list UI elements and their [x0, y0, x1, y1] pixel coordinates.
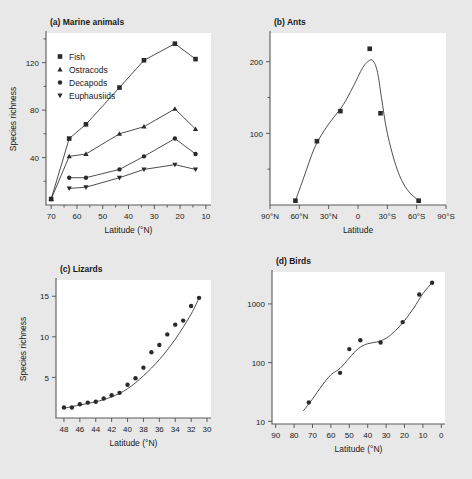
- legend-label-decapods: Decapods: [69, 78, 107, 88]
- x-tick-label: 44: [91, 425, 100, 434]
- panel-ants: (b) Ants90°N60°N30°N030°S60°S90°S100200L…: [250, 17, 455, 235]
- data-point: [293, 198, 298, 203]
- data-point: [67, 176, 71, 180]
- y-tick-label: 100: [252, 359, 266, 368]
- x-tick-label: 0: [356, 212, 361, 221]
- x-tick-label: 30: [382, 431, 391, 440]
- data-point: [84, 176, 88, 180]
- x-tick-label: 48: [59, 425, 68, 434]
- x-tick-label: 42: [107, 425, 116, 434]
- data-point: [430, 281, 434, 285]
- y-tick-label: 200: [250, 58, 264, 67]
- x-tick-label: 0: [439, 431, 444, 440]
- data-point: [86, 400, 90, 404]
- legend-label-fish: Fish: [69, 52, 85, 62]
- x-tick-label: 30: [150, 212, 159, 221]
- plot-area-lizards: [56, 280, 211, 418]
- x-tick-label: 50: [345, 431, 354, 440]
- data-point: [109, 393, 113, 397]
- x-tick-label: 36: [155, 425, 164, 434]
- x-tick-label: 32: [187, 425, 196, 434]
- data-point: [417, 292, 421, 296]
- x-tick-label: 34: [171, 425, 180, 434]
- data-point: [133, 376, 137, 380]
- legend-label-euphausiids: Euphausiids: [69, 91, 115, 101]
- y-tick-label: 40: [30, 154, 39, 163]
- data-point: [358, 338, 362, 342]
- x-axis-label-birds: Latitude (°N): [335, 444, 383, 454]
- data-point: [117, 391, 121, 395]
- x-axis-label-ants: Latitude: [343, 225, 374, 235]
- species-richness-figure: (a) Marine animals706050403020104080120L…: [0, 0, 472, 479]
- panel-birds: (d) Birds9080706050403020100101001000Lat…: [247, 256, 445, 454]
- data-point: [157, 343, 161, 347]
- x-tick-label: 30°S: [379, 212, 396, 221]
- x-tick-label: 20: [176, 212, 185, 221]
- y-tick-label: 10: [40, 333, 49, 342]
- y-tick-label: 1000: [247, 300, 265, 309]
- data-point: [62, 405, 66, 409]
- data-point: [197, 296, 201, 300]
- data-point: [193, 152, 197, 156]
- x-tick-label: 40: [123, 425, 132, 434]
- y-tick-label: 10: [256, 418, 265, 427]
- data-point: [193, 57, 198, 62]
- x-axis-label-marine-animals: Latitude (°N): [105, 225, 153, 235]
- x-tick-label: 46: [75, 425, 84, 434]
- legend-label-ostracods: Ostracods: [69, 65, 108, 75]
- panel-title-birds: (d) Birds: [276, 256, 311, 266]
- panel-title-lizards: (c) Lizards: [60, 264, 103, 274]
- data-point: [173, 136, 177, 140]
- x-tick-label: 70: [47, 212, 56, 221]
- data-point: [78, 402, 82, 406]
- data-point: [189, 304, 193, 308]
- x-tick-label: 80: [290, 431, 299, 440]
- data-point: [173, 41, 178, 46]
- data-point: [338, 109, 343, 114]
- x-tick-label: 60°S: [408, 212, 425, 221]
- data-point: [378, 111, 383, 116]
- x-tick-label: 30: [203, 425, 212, 434]
- data-point: [58, 54, 63, 59]
- data-point: [142, 58, 147, 63]
- x-tick-label: 90°N: [261, 212, 279, 221]
- data-point: [84, 122, 89, 127]
- data-point: [165, 332, 169, 336]
- data-point: [347, 347, 351, 351]
- panel-marine-animals: (a) Marine animals706050403020104080120L…: [8, 17, 211, 235]
- y-tick-label: 100: [250, 130, 264, 139]
- data-point: [338, 371, 342, 375]
- x-tick-label: 60: [326, 431, 335, 440]
- x-tick-label: 70: [308, 431, 317, 440]
- x-tick-label: 90: [271, 431, 280, 440]
- x-tick-label: 10: [418, 431, 427, 440]
- data-point: [181, 318, 185, 322]
- y-tick-label: 5: [45, 374, 50, 383]
- data-point: [117, 85, 122, 90]
- data-point: [173, 322, 177, 326]
- data-point: [416, 198, 421, 203]
- plot-area-ants: [270, 33, 446, 205]
- panel-lizards: (c) Lizards4846444240383634323051015Lati…: [18, 264, 212, 448]
- data-point: [117, 167, 121, 171]
- x-tick-label: 40: [124, 212, 133, 221]
- x-tick-label: 40: [363, 431, 372, 440]
- data-point: [400, 320, 404, 324]
- data-point: [67, 136, 72, 141]
- x-tick-label: 60: [72, 212, 81, 221]
- data-point: [307, 400, 311, 404]
- x-tick-label: 60°N: [290, 212, 308, 221]
- data-point: [70, 405, 74, 409]
- data-point: [94, 400, 98, 404]
- y-axis-label-lizards: Species richness: [18, 317, 28, 381]
- data-point: [58, 80, 62, 84]
- y-tick-label: 15: [40, 292, 49, 301]
- x-tick-label: 20: [400, 431, 409, 440]
- y-tick-label: 80: [30, 106, 39, 115]
- y-axis-label-marine-animals: Species richness: [8, 87, 18, 151]
- data-point: [367, 46, 372, 51]
- data-point: [101, 396, 105, 400]
- panel-title-marine-animals: (a) Marine animals: [50, 17, 124, 27]
- x-axis-label-lizards: Latitude (°N): [110, 438, 158, 448]
- data-point: [315, 139, 320, 144]
